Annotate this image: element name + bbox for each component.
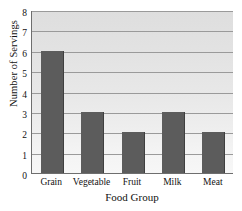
- y-tick-label: 6: [13, 50, 27, 60]
- y-tick-label: 0: [13, 172, 27, 182]
- y-axis-tick-labels: 012345678: [13, 14, 27, 174]
- plot-area: [31, 11, 233, 174]
- x-tick-label: Vegetable: [71, 176, 111, 188]
- bar: [122, 132, 145, 173]
- x-tick-label: Grain: [31, 176, 71, 188]
- x-axis-tick-labels: GrainVegetableFruitMilkMeat: [31, 176, 233, 190]
- y-tick-label: 5: [13, 70, 27, 80]
- bars-group: [32, 11, 233, 173]
- bar: [162, 112, 185, 173]
- x-tick-label: Milk: [152, 176, 192, 188]
- bar: [202, 132, 225, 173]
- x-tick-label: Meat: [193, 176, 233, 188]
- bar-chart-figure: Number of Servings 012345678 GrainVegeta…: [0, 0, 242, 211]
- y-tick-label: 2: [13, 131, 27, 141]
- bar: [41, 51, 64, 173]
- x-tick-label: Fruit: [112, 176, 152, 188]
- bar: [81, 112, 104, 173]
- x-axis-title: Food Group: [31, 191, 233, 203]
- y-tick-label: 4: [13, 91, 27, 101]
- y-tick-label: 3: [13, 111, 27, 121]
- y-tick-label: 7: [13, 29, 27, 39]
- y-tick-label: 8: [13, 9, 27, 19]
- y-tick-label: 1: [13, 152, 27, 162]
